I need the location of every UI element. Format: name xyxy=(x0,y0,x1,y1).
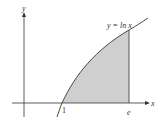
x-axis-label: x xyxy=(150,99,155,108)
x-axis-arrow-icon xyxy=(145,101,150,105)
y-axis-label: y xyxy=(21,4,26,13)
curve-label: y = ln x xyxy=(106,21,132,30)
x-tick-e: e xyxy=(127,108,131,117)
shaded-area xyxy=(62,30,129,103)
x-tick-1: 1 xyxy=(62,106,66,115)
diagram-canvas: y x 1 e y = ln x xyxy=(0,0,160,124)
ln-area-diagram: y x 1 e y = ln x xyxy=(0,0,160,124)
